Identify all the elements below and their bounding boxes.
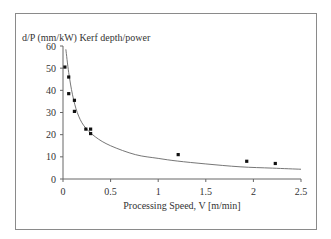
y-axis-label: d/P (mm/kW) Kerf depth/power bbox=[22, 32, 151, 44]
y-tick-label: 50 bbox=[46, 63, 56, 74]
y-tick-label: 20 bbox=[46, 129, 56, 140]
y-tick-label: 0 bbox=[51, 174, 56, 185]
data-point bbox=[84, 128, 87, 131]
y-tick-label: 40 bbox=[46, 85, 56, 96]
x-tick-label: 2.5 bbox=[295, 186, 308, 197]
chart-plot: d/P (mm/kW) Kerf depth/power 01020304050… bbox=[0, 0, 331, 239]
x-tick-label: 2 bbox=[251, 186, 256, 197]
data-point bbox=[245, 160, 248, 163]
data-point bbox=[73, 99, 76, 102]
data-points bbox=[63, 65, 277, 165]
data-point bbox=[89, 132, 92, 135]
y-axis-ticks: 0102030405060 bbox=[46, 41, 63, 185]
data-point bbox=[67, 75, 70, 78]
data-point bbox=[63, 65, 66, 68]
data-point bbox=[67, 92, 70, 95]
y-tick-label: 10 bbox=[46, 151, 56, 162]
fit-curve bbox=[66, 49, 301, 169]
x-tick-label: 0.5 bbox=[104, 186, 117, 197]
x-tick-label: 1.5 bbox=[200, 186, 213, 197]
data-point bbox=[89, 128, 92, 131]
x-axis-ticks: 00.511.522.5 bbox=[61, 179, 308, 197]
data-point bbox=[177, 153, 180, 156]
x-tick-label: 1 bbox=[156, 186, 161, 197]
data-point bbox=[73, 110, 76, 113]
x-axis-label: Processing Speed, V [m/min] bbox=[123, 200, 240, 211]
y-tick-label: 60 bbox=[46, 41, 56, 52]
x-tick-label: 0 bbox=[61, 186, 66, 197]
y-tick-label: 30 bbox=[46, 107, 56, 118]
data-point bbox=[274, 162, 277, 165]
